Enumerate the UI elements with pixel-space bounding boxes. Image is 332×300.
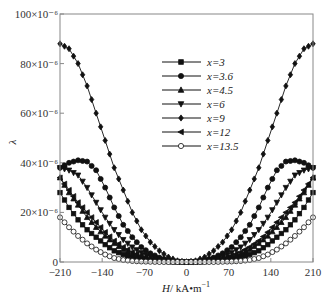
diamond-marker-icon (306, 43, 310, 49)
lambda-vs-field-chart: 020×10⁻⁶40×10⁻⁶60×10⁻⁶80×10⁻⁶100×10⁻⁶ −2… (0, 0, 332, 300)
square-marker-icon (179, 60, 184, 65)
circle-marker-icon (261, 195, 266, 200)
circle-marker-icon (134, 240, 139, 245)
legend-label: x=3 (206, 56, 225, 68)
square-marker-icon (284, 228, 288, 232)
circle-marker-icon (130, 235, 135, 240)
circle-marker-icon (116, 214, 121, 219)
square-marker-icon (76, 218, 80, 222)
x-tick-label: 210 (305, 266, 322, 278)
circle-marker-icon (270, 176, 275, 181)
triangle-down-marker-icon (98, 208, 103, 213)
y-axis-label: λ (6, 139, 18, 145)
diamond-marker-icon (270, 124, 274, 130)
diamond-marker-icon (117, 176, 121, 182)
diamond-marker-icon (288, 72, 292, 78)
y-tick-label: 60×10⁻⁶ (20, 107, 58, 119)
diamond-marker-icon (89, 97, 93, 103)
circle-marker-icon (274, 247, 279, 252)
x-tick-label: −70 (136, 266, 154, 278)
circle-marker-icon (243, 229, 248, 234)
square-marker-icon (297, 211, 301, 215)
circle-marker-icon (283, 241, 288, 246)
diamond-marker-icon (275, 110, 279, 116)
circle-marker-icon (288, 237, 293, 242)
legend-item: x=4.5 (162, 84, 234, 96)
legend-item: x=6 (162, 98, 225, 110)
x-axis-label: H/ kA•m−1 (161, 280, 210, 294)
square-marker-icon (89, 231, 93, 235)
circle-marker-icon (297, 229, 302, 234)
diamond-marker-icon (252, 176, 256, 182)
diamond-marker-icon (162, 251, 166, 257)
diamond-marker-icon (98, 124, 102, 130)
square-marker-icon (302, 205, 306, 209)
square-marker-icon (98, 239, 102, 243)
diamond-marker-icon (261, 151, 265, 157)
circle-marker-icon (229, 245, 234, 250)
legend-item: x=3 (162, 56, 225, 68)
square-marker-icon (279, 231, 283, 235)
circle-marker-icon (103, 185, 108, 190)
square-marker-icon (80, 223, 84, 227)
series-x9 (58, 41, 315, 265)
square-marker-icon (121, 252, 125, 256)
square-marker-icon (306, 198, 310, 202)
diamond-marker-icon (112, 165, 116, 171)
square-marker-icon (71, 211, 75, 215)
square-marker-icon (94, 235, 98, 239)
legend-label: x=4.5 (206, 84, 234, 96)
x-axis-label-unit: / kA•m (170, 282, 202, 294)
circle-marker-icon (80, 237, 85, 242)
square-marker-icon (257, 249, 261, 253)
diamond-marker-icon (284, 83, 288, 89)
square-marker-icon (266, 242, 270, 246)
legend-item: x=3.6 (162, 70, 234, 82)
legend-label: x=9 (206, 112, 225, 124)
legend: x=3x=3.6x=4.5x=6x=9x=12x=13.5 (162, 56, 239, 152)
legend-item: x=13.5 (162, 140, 239, 152)
circle-marker-icon (301, 225, 306, 230)
square-marker-icon (275, 235, 279, 239)
circle-marker-icon (252, 214, 257, 219)
square-marker-icon (117, 251, 121, 255)
circle-marker-icon (247, 222, 252, 227)
circle-marker-icon (62, 220, 67, 225)
square-marker-icon (288, 223, 292, 227)
y-tick-label: 100×10⁻⁶ (15, 8, 59, 20)
diamond-marker-icon (179, 115, 184, 121)
circle-marker-icon (125, 229, 130, 234)
triangle-down-marker-icon (270, 208, 275, 213)
series-line (60, 160, 313, 262)
circle-marker-icon (98, 176, 103, 181)
circle-marker-icon (279, 163, 284, 168)
diamond-marker-icon (80, 72, 84, 78)
diamond-marker-icon (121, 187, 125, 193)
circle-marker-icon (265, 185, 270, 190)
circle-marker-icon (279, 244, 284, 249)
circle-marker-icon (71, 229, 76, 234)
diamond-marker-icon (257, 165, 261, 171)
triangle-down-marker-icon (89, 193, 94, 198)
x-tick-label: 0 (184, 266, 190, 278)
diamond-marker-icon (62, 43, 66, 49)
triangle-left-marker-icon (178, 129, 183, 135)
circle-marker-icon (107, 195, 112, 200)
circle-marker-icon (306, 220, 311, 225)
circle-marker-icon (94, 168, 99, 173)
triangle-down-marker-icon (274, 200, 279, 205)
y-tick-label: 80×10⁻⁶ (20, 58, 58, 70)
triangle-down-marker-icon (283, 185, 288, 190)
diamond-marker-icon (103, 137, 107, 143)
circle-marker-icon (178, 143, 183, 148)
legend-label: x=12 (206, 126, 231, 138)
square-marker-icon (107, 246, 111, 250)
diamond-marker-icon (94, 110, 98, 116)
circle-marker-icon (89, 244, 94, 249)
circle-marker-icon (76, 233, 81, 238)
circle-marker-icon (256, 205, 261, 210)
diamond-marker-icon (85, 83, 89, 89)
circle-marker-icon (112, 205, 117, 210)
circle-marker-icon (238, 235, 243, 240)
diamond-marker-icon (107, 151, 111, 157)
